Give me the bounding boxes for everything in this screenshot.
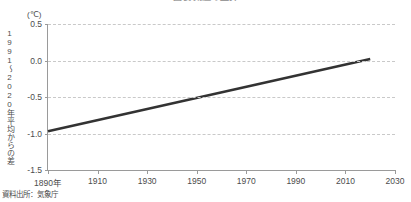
y-tick-label: 0.0 xyxy=(30,56,42,66)
y-tick-mark xyxy=(45,134,48,135)
source-note: 資料出所：気象庁 xyxy=(2,188,58,199)
x-tick-label: 1890年 xyxy=(34,176,62,188)
y-tick-label: 0.5 xyxy=(30,19,42,29)
temperature-trend-figure: 図表 気温の上昇 1991〜2020年平均からの差 (℃) 0.50.0-0.5… xyxy=(0,0,411,202)
x-tick-label: 1930 xyxy=(138,176,157,186)
x-tick-label: 1950 xyxy=(187,176,206,186)
x-tick-mark xyxy=(197,170,198,174)
gridline-horizontal xyxy=(48,97,395,98)
x-tick-label: 2030 xyxy=(386,176,405,186)
gridline-horizontal xyxy=(48,61,395,62)
y-tick-label: -0.5 xyxy=(27,92,42,102)
y-tick-label: -1.5 xyxy=(27,165,42,175)
chart-title: 図表 気温の上昇 xyxy=(0,0,411,1)
y-axis-label: 1991〜2020年平均からの差 xyxy=(1,14,14,180)
x-tick-label: 1990 xyxy=(286,176,305,186)
x-axis-line xyxy=(47,170,396,171)
y-tick-mark xyxy=(45,24,48,25)
plot-area: 0.50.0-0.5-1.0-1.51890年19101930195019701… xyxy=(48,24,395,170)
gridline-horizontal xyxy=(48,24,395,25)
x-tick-mark xyxy=(345,170,346,174)
x-tick-mark xyxy=(296,170,297,174)
y-tick-mark xyxy=(45,61,48,62)
x-tick-label: 1970 xyxy=(237,176,256,186)
y-axis-unit-label: (℃) xyxy=(27,10,41,19)
x-tick-mark xyxy=(98,170,99,174)
x-tick-label: 2010 xyxy=(336,176,355,186)
x-tick-mark xyxy=(147,170,148,174)
x-tick-mark xyxy=(48,170,49,174)
y-tick-mark xyxy=(45,97,48,98)
x-tick-label: 1910 xyxy=(88,176,107,186)
trend-line xyxy=(48,59,370,131)
y-tick-label: -1.0 xyxy=(27,129,42,139)
gridline-horizontal xyxy=(48,134,395,135)
x-tick-mark xyxy=(395,170,396,174)
x-tick-mark xyxy=(246,170,247,174)
